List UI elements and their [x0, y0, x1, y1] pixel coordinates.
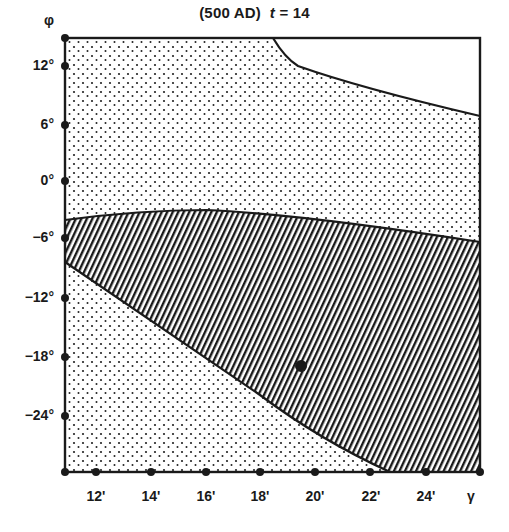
y-axis-name: φ [44, 12, 54, 28]
x-axis-name: γ [467, 488, 475, 504]
x-tick-label: 20' [295, 488, 335, 504]
y-tick-label: −24° [0, 407, 54, 423]
diagram-plot [0, 0, 509, 532]
x-tick-label: 22' [351, 488, 391, 504]
x-tick-label: 14' [131, 488, 171, 504]
y-tick-label: −18° [0, 348, 54, 364]
position-marker [295, 360, 307, 372]
x-tick-label: 24' [406, 488, 446, 504]
x-tick-label: 16' [186, 488, 226, 504]
y-tick-label: −6° [0, 229, 54, 245]
y-tick-label: 6° [0, 116, 54, 132]
y-tick-label: −12° [0, 289, 54, 305]
x-tick-label: 18' [240, 488, 280, 504]
x-tick-label: 12' [76, 488, 116, 504]
y-tick-label: 0° [0, 172, 54, 188]
y-tick-label: 12° [0, 57, 54, 73]
